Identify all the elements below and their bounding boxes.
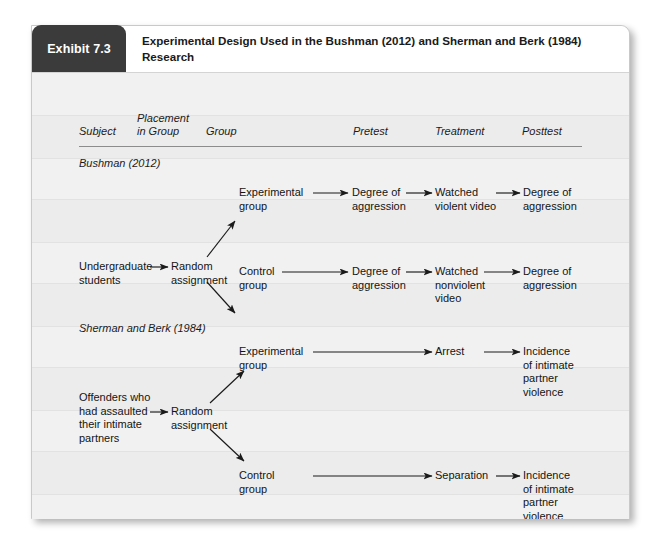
node-bushman-ctl-pretest: Degree of aggression: [352, 265, 406, 292]
arrow-sherman-placement-to-exp: [210, 371, 244, 403]
column-header-treatment: Treatment: [435, 125, 484, 138]
exhibit-card: Exhibit 7.3 Experimental Design Used in …: [31, 25, 630, 519]
node-bushman-ctl-treatment: Watched nonviolent video: [435, 265, 485, 306]
node-sherman-exp-group: Experimental group: [239, 345, 303, 372]
node-bushman-exp-posttest: Degree of aggression: [523, 186, 577, 213]
header-divider: [79, 146, 582, 147]
node-sherman-ctl-treatment: Separation: [435, 469, 488, 483]
exhibit-title-line-1: Experimental Design Used in the Bushman …: [142, 33, 612, 49]
exhibit-card-body: Subject Placement in Group Group Pretest…: [32, 72, 629, 519]
node-bushman-placement: Random assignment: [171, 260, 227, 287]
exhibit-number-tab: Exhibit 7.3: [32, 25, 126, 72]
column-header-pretest: Pretest: [353, 125, 388, 138]
node-bushman-exp-group: Experimental group: [239, 186, 303, 213]
node-bushman-subject: Undergraduate students: [79, 260, 152, 287]
node-bushman-ctl-posttest: Degree of aggression: [523, 265, 577, 292]
flow-arrows: [32, 73, 629, 519]
exhibit-card-header: Exhibit 7.3 Experimental Design Used in …: [32, 26, 629, 72]
arrow-bushman-placement-to-exp: [207, 221, 235, 257]
column-header-group: Group: [206, 125, 237, 138]
node-sherman-ctl-posttest: Incidence of intimate partner violence: [523, 469, 574, 519]
section-label-sherman-berk: Sherman and Berk (1984): [79, 322, 206, 334]
node-sherman-exp-treatment: Arrest: [435, 345, 464, 359]
column-header-placement: Placement in Group: [137, 112, 189, 138]
column-header-subject: Subject: [79, 125, 116, 138]
exhibit-title: Experimental Design Used in the Bushman …: [142, 33, 612, 65]
node-bushman-ctl-group: Control group: [239, 265, 274, 292]
node-sherman-placement: Random assignment: [171, 405, 227, 432]
exhibit-number-label: Exhibit 7.3: [47, 42, 111, 56]
exhibit-title-line-2: Research: [142, 49, 612, 65]
node-sherman-subject: Offenders who had assaulted their intima…: [79, 391, 150, 445]
section-label-bushman: Bushman (2012): [79, 157, 160, 169]
arrow-sherman-placement-to-ctl: [210, 429, 244, 461]
column-header-posttest: Posttest: [522, 125, 562, 138]
node-bushman-exp-pretest: Degree of aggression: [352, 186, 406, 213]
exhibit-figure: Exhibit 7.3 Experimental Design Used in …: [0, 0, 667, 554]
node-bushman-exp-treatment: Watched violent video: [435, 186, 496, 213]
node-sherman-ctl-group: Control group: [239, 469, 274, 496]
node-sherman-exp-posttest: Incidence of intimate partner violence: [523, 345, 574, 399]
